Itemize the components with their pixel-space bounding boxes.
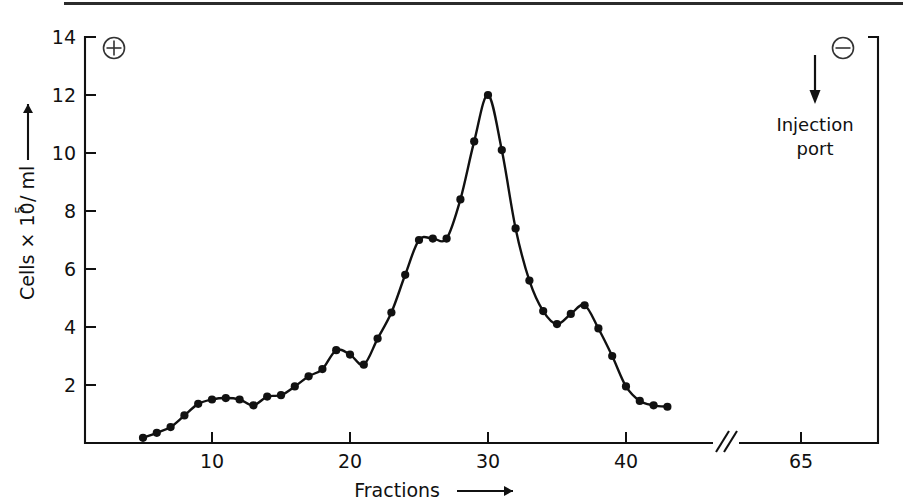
data-point — [650, 401, 658, 409]
data-point — [608, 352, 616, 360]
data-point — [594, 324, 602, 332]
data-point — [401, 271, 409, 279]
y-axis-ticks — [85, 37, 96, 385]
data-point — [332, 346, 340, 354]
data-point — [387, 308, 395, 316]
data-point — [153, 429, 161, 437]
x-tick-label-65: 65 — [789, 450, 813, 472]
y-tick-label-4: 4 — [64, 316, 76, 338]
y-axis-title-exponent: 5 — [12, 206, 27, 214]
y-axis-title-group: Cells × 10 5 / ml — [12, 104, 38, 300]
y-axis-title-arrow — [23, 104, 33, 160]
data-point — [429, 234, 437, 242]
data-point — [263, 393, 271, 401]
data-point — [249, 401, 257, 409]
axis-break-marker — [713, 431, 739, 452]
data-point — [553, 320, 561, 328]
data-point — [539, 307, 547, 315]
data-point — [291, 382, 299, 390]
y-axis-title-main: Cells × 10 — [16, 202, 38, 300]
data-point — [346, 350, 354, 358]
y-tick-label-14: 14 — [52, 26, 76, 48]
y-tick-label-2: 2 — [64, 374, 76, 396]
data-point — [374, 335, 382, 343]
series-line — [143, 95, 667, 438]
data-point — [470, 137, 478, 145]
x-axis-title-arrow — [457, 486, 513, 496]
axis-frame — [85, 37, 878, 443]
y-tick-label-10: 10 — [52, 142, 76, 164]
data-series-group — [139, 91, 672, 442]
injection-port-arrow-icon — [810, 55, 821, 104]
injection-port-label-line2: port — [797, 138, 834, 159]
minus-circle-icon — [833, 38, 854, 59]
chart-canvas: 14 12 10 8 6 4 2 " ===== --> Cells × 10 … — [0, 0, 903, 500]
data-point — [636, 397, 644, 405]
y-tick-label-12: 12 — [52, 84, 76, 106]
data-point — [180, 411, 188, 419]
x-tick-label-20: 20 — [338, 450, 362, 472]
x-axis-ticks — [212, 432, 801, 443]
data-point — [222, 394, 230, 402]
data-point — [139, 434, 147, 442]
data-point — [415, 236, 423, 244]
y-axis-tick-labels: 14 12 10 8 6 4 2 — [52, 26, 76, 396]
data-point — [484, 91, 492, 99]
x-axis-title-group: Fractions — [354, 479, 513, 500]
data-point — [456, 195, 464, 203]
data-point — [443, 234, 451, 242]
x-tick-label-10: 10 — [200, 450, 224, 472]
x-tick-label-40: 40 — [614, 450, 638, 472]
data-point — [498, 146, 506, 154]
data-point — [567, 310, 575, 318]
injection-port-label-line1: Injection — [776, 114, 853, 135]
figure-container: 14 12 10 8 6 4 2 " ===== --> Cells × 10 … — [0, 0, 903, 500]
data-point — [511, 224, 519, 232]
x-axis-title: Fractions — [354, 479, 440, 500]
data-point — [318, 365, 326, 373]
data-point — [236, 395, 244, 403]
data-point — [277, 391, 285, 399]
data-point — [622, 382, 630, 390]
data-point — [305, 372, 313, 380]
y-tick-label-6: 6 — [64, 258, 76, 280]
injection-port-annotation: Injection port — [776, 55, 853, 159]
data-point — [360, 361, 368, 369]
data-point — [581, 301, 589, 309]
series-markers — [139, 91, 672, 442]
axis-spines — [85, 37, 878, 443]
data-point — [208, 395, 216, 403]
y-axis-title-unit: / ml — [16, 166, 38, 202]
data-point — [167, 423, 175, 431]
plus-circle-icon — [104, 38, 125, 59]
x-axis-tick-labels: 10 20 30 40 65 — [200, 450, 813, 472]
x-tick-label-30: 30 — [476, 450, 500, 472]
data-point — [663, 403, 671, 411]
data-point — [194, 400, 202, 408]
data-point — [525, 277, 533, 285]
y-tick-label-8: 8 — [64, 200, 76, 222]
